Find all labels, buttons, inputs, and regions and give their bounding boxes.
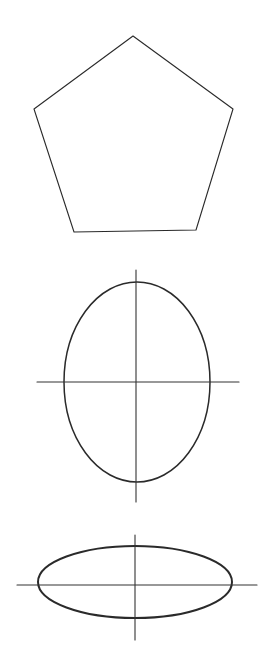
drawing-canvas [0,0,268,671]
pentagon-shape [34,36,233,232]
wide-ellipse-figure [17,535,257,640]
tall-ellipse-figure [37,270,239,502]
pentagon-figure [34,36,233,232]
